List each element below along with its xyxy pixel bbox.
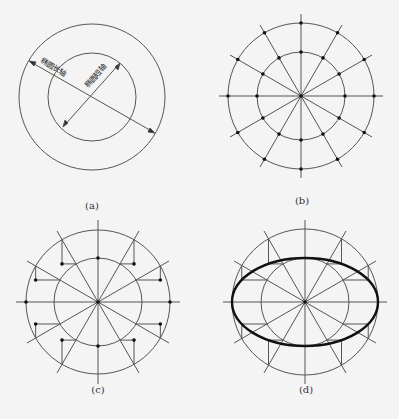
major-axis-label: 椭圆长轴 [39, 55, 68, 78]
caption-c: (c) [78, 384, 118, 395]
panel-a [19, 24, 165, 170]
ellipse-construction-figure: 椭圆长轴 椭圆短轴 [0, 0, 399, 419]
panel-b [219, 14, 383, 178]
caption-b: (b) [282, 195, 322, 206]
caption-a: (a) [72, 200, 112, 211]
panel-d [223, 220, 387, 384]
panel-c [16, 220, 180, 384]
minor-axis-label: 椭圆短轴 [82, 62, 108, 89]
caption-d: (d) [286, 384, 326, 395]
